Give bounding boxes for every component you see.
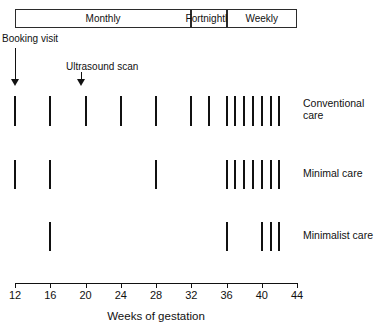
x-axis-tick	[15, 283, 16, 288]
visit-mark	[120, 96, 122, 126]
schedule-band-label: Monthly	[86, 14, 121, 24]
visit-row-conventional-care: Conventional care	[0, 96, 392, 126]
visit-mark	[234, 160, 236, 189]
schedule-band-label: Weekly	[245, 14, 278, 24]
visit-row-minimal-care: Minimal care	[0, 160, 392, 189]
visit-mark	[49, 222, 51, 251]
schedule-band-weekly: Weekly	[227, 9, 298, 28]
visit-mark	[261, 222, 263, 251]
annotation-arrow-down-icon	[11, 48, 20, 86]
x-axis-tick	[297, 283, 298, 288]
visit-mark	[243, 160, 245, 189]
visit-mark	[49, 96, 51, 126]
x-axis-tick-label: 44	[291, 290, 303, 301]
visit-mark	[270, 222, 272, 251]
visit-mark	[261, 160, 263, 189]
x-axis-tick	[121, 283, 122, 288]
visit-mark	[208, 96, 210, 126]
schedule-band-label: Fortnightly	[186, 14, 233, 24]
visit-mark	[226, 160, 228, 189]
visit-mark	[14, 160, 16, 189]
x-axis-tick-label: 40	[256, 290, 268, 301]
x-axis-tick	[86, 283, 87, 288]
visit-mark	[243, 96, 245, 126]
x-axis-tick	[191, 283, 192, 288]
visit-row-label: Minimalist care	[303, 229, 373, 241]
visit-mark	[234, 96, 236, 126]
visit-mark	[270, 96, 272, 126]
visit-mark	[226, 96, 228, 126]
x-axis-tick-label: 12	[9, 290, 21, 301]
antenatal-schedule-figure: MonthlyFortnightlyWeekly Booking visitUl…	[0, 0, 392, 329]
x-axis-tick	[227, 283, 228, 288]
annotation-arrow-down-icon	[77, 72, 86, 86]
visit-mark	[155, 96, 157, 126]
visit-mark	[261, 96, 263, 126]
visit-mark	[14, 96, 16, 126]
visit-mark	[252, 160, 254, 189]
visit-row-minimalist-care: Minimalist care	[0, 222, 392, 251]
visit-mark	[49, 160, 51, 189]
visit-mark	[270, 160, 272, 189]
visit-mark	[85, 96, 87, 126]
x-axis-tick-label: 32	[185, 290, 197, 301]
visit-row-label: Conventional care	[303, 97, 364, 121]
visit-mark	[278, 160, 280, 189]
visit-row-label: Minimal care	[303, 167, 363, 179]
visit-mark	[155, 160, 157, 189]
visit-mark	[226, 222, 228, 251]
visit-mark	[278, 222, 280, 251]
visit-mark	[252, 96, 254, 126]
x-axis-tick	[50, 283, 51, 288]
schedule-band-fortnightly: Fortnightly	[191, 9, 226, 28]
schedule-band-monthly: Monthly	[15, 9, 191, 28]
visit-mark	[278, 96, 280, 126]
x-axis-tick	[262, 283, 263, 288]
x-axis-tick-label: 16	[44, 290, 56, 301]
annotation-label-ultrasound-scan: Ultrasound scan	[66, 62, 138, 73]
x-axis-title: Weeks of gestation	[107, 311, 205, 323]
x-axis-tick	[156, 283, 157, 288]
visit-mark	[190, 96, 192, 126]
x-axis-tick-label: 36	[220, 290, 232, 301]
x-axis-tick-label: 20	[79, 290, 91, 301]
x-axis-tick-label: 24	[115, 290, 127, 301]
annotation-label-booking-visit: Booking visit	[2, 34, 58, 45]
x-axis-tick-label: 28	[150, 290, 162, 301]
